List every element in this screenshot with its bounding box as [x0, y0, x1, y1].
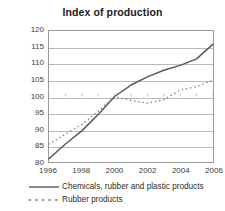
legend-item-chemicals: Chemicals, rubber and plastic products	[28, 180, 223, 193]
legend-item-rubber: Rubber products	[28, 193, 223, 206]
y-axis-tick-label: 95	[20, 109, 44, 117]
series-lines	[49, 31, 213, 162]
x-axis-tick-label: 2006	[199, 167, 225, 175]
series-line	[49, 80, 213, 144]
legend-label-rubber: Rubber products	[62, 195, 123, 205]
chart-title: Index of production	[0, 6, 225, 18]
y-axis-tick-label: 110	[20, 59, 44, 67]
x-axis-tick-label: 1998	[66, 167, 96, 175]
series-line	[49, 44, 213, 159]
y-axis-tick-label: 115	[20, 43, 44, 51]
x-axis-tick-label: 1996	[33, 167, 63, 175]
legend-solid-line-icon	[28, 182, 62, 192]
plot-area	[48, 30, 214, 163]
legend-dotted-line-icon	[28, 195, 62, 205]
x-axis-tick-label: 2004	[166, 167, 196, 175]
chart-figure: Index of production 80859095100105110115…	[0, 0, 225, 211]
y-axis-tick-label: 90	[20, 126, 44, 134]
x-axis-tick-label: 2002	[133, 167, 163, 175]
y-axis-tick-label: 85	[20, 142, 44, 150]
y-axis-tick-label: 100	[20, 93, 44, 101]
y-axis-tick-label: 105	[20, 76, 44, 84]
chart-legend: Chemicals, rubber and plastic products R…	[28, 180, 223, 206]
y-axis-tick-label: 120	[20, 26, 44, 34]
legend-label-chemicals: Chemicals, rubber and plastic products	[62, 182, 204, 192]
x-axis-tick-label: 2000	[99, 167, 129, 175]
